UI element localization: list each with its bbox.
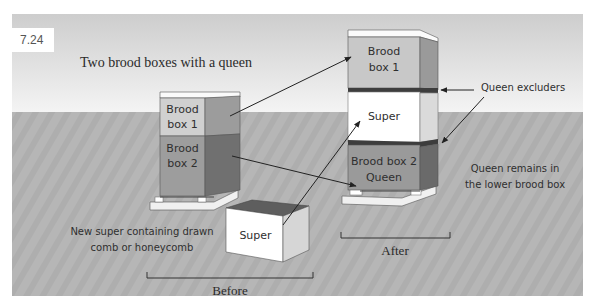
figure-title: Two brood boxes with a queen — [80, 55, 252, 71]
before-label: Before — [180, 283, 280, 299]
diagram-stage: 7.24 Two brood boxes with a queen Brood … — [0, 0, 599, 308]
after-brood-box-2-line1: Brood box 2 — [348, 154, 420, 170]
new-super-label: Super — [228, 229, 283, 242]
new-super-caption-line1: New super containing drawn — [62, 224, 222, 240]
after-super-label: Super — [348, 110, 420, 123]
queen-note: Queen remains in the lower brood box — [450, 161, 580, 193]
queen-note-line2: the lower brood box — [450, 177, 580, 193]
new-super-caption: New super containing drawn comb or honey… — [62, 224, 222, 256]
before-brood-box-2-label: Brood box 2 — [160, 141, 205, 171]
new-super-caption-line2: comb or honeycomb — [62, 240, 222, 256]
after-brood-box-2-line2: Queen — [348, 170, 420, 186]
before-brood-box-1-line1: Brood — [160, 102, 205, 117]
before-brood-box-2-line1: Brood — [160, 141, 205, 156]
after-label: After — [345, 243, 445, 259]
figure-number: 7.24 — [12, 28, 54, 52]
queen-excluders-label: Queen excluders — [481, 82, 565, 93]
after-brood-box-2-label: Brood box 2 Queen — [348, 154, 420, 186]
after-brood-box-1-line1: Brood — [348, 44, 420, 60]
before-brood-box-1-line2: box 1 — [160, 117, 205, 132]
after-brood-box-1-line2: box 1 — [348, 60, 420, 76]
after-brood-box-1-label: Brood box 1 — [348, 44, 420, 76]
diagram-illustration — [0, 0, 599, 308]
before-brood-box-2-line2: box 2 — [160, 156, 205, 171]
queen-note-line1: Queen remains in — [450, 161, 580, 177]
before-brood-box-1-label: Brood box 1 — [160, 102, 205, 132]
